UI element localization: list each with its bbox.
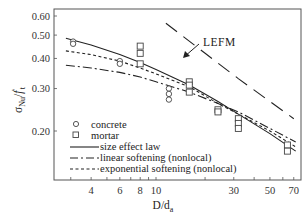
x-tick-label: 4 (89, 185, 95, 196)
chart-canvas: 46810305070 0.200.300.400.500.60 LEFM co… (0, 0, 307, 222)
mortar-point (137, 43, 143, 49)
lefm-label: LEFM (203, 36, 236, 48)
y-title-sub: Nu (18, 97, 27, 107)
x-title-sub: a (170, 205, 174, 214)
lefm-annotation: LEFM (183, 36, 236, 58)
concrete-point (166, 97, 171, 102)
mortar-point (137, 61, 143, 67)
legend-circle-icon (73, 121, 78, 126)
concrete-point (70, 41, 75, 46)
y-tick-label: 0.40 (32, 53, 50, 64)
concrete-point (166, 86, 171, 91)
x-tick-label: 30 (229, 185, 240, 196)
x-tick-label: 10 (151, 185, 162, 196)
y-tick-label: 0.60 (32, 11, 50, 22)
legend-exponential-softening-label: exponential softening (nonlocal) (100, 163, 237, 175)
concrete-point (166, 91, 171, 96)
legend-mortar-label: mortar (91, 130, 119, 141)
mortar-point (284, 142, 290, 148)
mortar-point (215, 109, 221, 115)
mortar-point (186, 82, 192, 88)
legend-size-effect-label: size effect law (100, 141, 161, 152)
legend: concrete mortar size effect law linear s… (70, 119, 237, 175)
mortar-point (186, 89, 192, 95)
legend-square-icon (73, 132, 79, 138)
y-axis-title: σNu/f't (11, 86, 27, 113)
mortar-point (137, 50, 143, 56)
mortar-point (284, 148, 290, 154)
x-title-main: D/d (153, 199, 171, 211)
y-tick-label: 0.20 (32, 126, 50, 137)
x-tick-label: 6 (117, 185, 122, 196)
y-axis-ticks: 0.200.300.400.500.60 (32, 11, 57, 137)
mortar-point (235, 125, 241, 131)
y-title-f-sub: t (18, 86, 27, 89)
legend-concrete-label: concrete (91, 119, 127, 130)
concrete-point (117, 61, 122, 66)
y-tick-label: 0.30 (32, 83, 50, 94)
x-axis-title: D/da (153, 199, 174, 214)
x-tick-label: 50 (265, 185, 276, 196)
x-tick-label: 8 (138, 185, 143, 196)
x-tick-label: 70 (289, 185, 300, 196)
svg-text:σNu/f't: σNu/f't (11, 86, 27, 113)
y-tick-label: 0.50 (32, 30, 50, 41)
